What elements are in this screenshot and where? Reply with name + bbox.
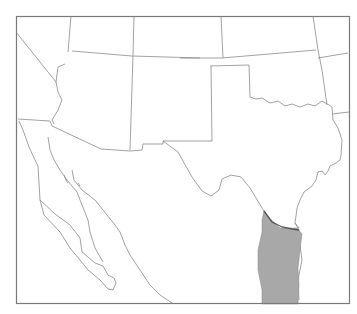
state-borders (16, 16, 349, 228)
map-canvas (0, 0, 357, 314)
species-range (258, 211, 302, 304)
map-frame (17, 17, 350, 304)
range-map (0, 0, 357, 314)
